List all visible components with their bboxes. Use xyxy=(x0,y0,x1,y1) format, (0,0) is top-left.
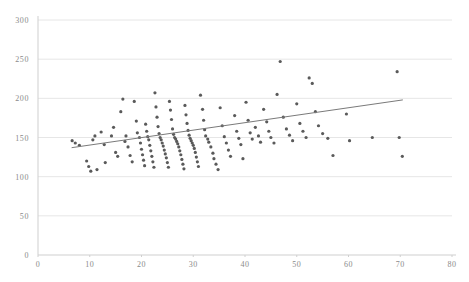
data-point xyxy=(167,166,170,169)
x-tick-label: 40 xyxy=(240,260,249,269)
data-point xyxy=(124,134,127,137)
data-point xyxy=(401,155,404,158)
data-point xyxy=(272,141,275,144)
data-point xyxy=(219,106,222,109)
data-point xyxy=(223,135,226,138)
x-tick-label: 70 xyxy=(396,260,405,269)
data-point xyxy=(179,153,182,156)
data-point xyxy=(207,141,210,144)
data-point xyxy=(321,132,324,135)
data-point xyxy=(126,145,129,148)
data-point xyxy=(202,119,205,122)
data-point xyxy=(131,160,134,163)
data-point xyxy=(114,151,117,154)
data-point xyxy=(140,148,143,151)
data-point xyxy=(345,112,348,115)
data-point xyxy=(89,170,92,173)
x-tick-label: 0 xyxy=(36,260,41,269)
data-point xyxy=(182,167,185,170)
data-point xyxy=(185,122,188,125)
data-point xyxy=(285,127,288,130)
data-point xyxy=(164,152,167,155)
data-point xyxy=(160,138,163,141)
data-point xyxy=(71,139,74,142)
data-point xyxy=(254,126,257,129)
data-point xyxy=(371,136,374,139)
data-point xyxy=(295,102,298,105)
y-tick-label: 300 xyxy=(15,16,29,25)
data-point xyxy=(119,110,122,113)
trendline xyxy=(72,100,403,148)
data-point xyxy=(152,166,155,169)
scatter-chart: 050100150200250300 01020304050607080 xyxy=(0,0,469,282)
data-point xyxy=(143,164,146,167)
data-point xyxy=(155,116,158,119)
data-point xyxy=(265,120,268,123)
data-point xyxy=(288,134,291,137)
data-point xyxy=(165,156,168,159)
data-point xyxy=(150,155,153,158)
data-point xyxy=(104,161,107,164)
y-tick-label: 100 xyxy=(15,173,29,182)
x-tick-labels: 01020304050607080 xyxy=(36,255,457,269)
data-point xyxy=(188,134,191,137)
data-point xyxy=(133,100,136,103)
trend-line xyxy=(72,100,403,148)
data-point xyxy=(87,165,90,168)
data-point xyxy=(279,60,282,63)
x-tick-label: 20 xyxy=(137,260,146,269)
plot-canvas: 050100150200250300 01020304050607080 xyxy=(0,0,469,282)
data-point xyxy=(244,101,247,104)
data-point xyxy=(177,145,180,148)
y-tick-label: 200 xyxy=(15,94,29,103)
data-point xyxy=(151,160,154,163)
data-point xyxy=(269,136,272,139)
data-point xyxy=(153,91,156,94)
data-point xyxy=(398,136,401,139)
data-point xyxy=(247,119,250,122)
data-point xyxy=(148,144,151,147)
data-point xyxy=(331,154,334,157)
x-tick-label: 10 xyxy=(85,260,94,269)
data-point xyxy=(121,98,124,101)
data-point xyxy=(194,151,197,154)
axes xyxy=(38,16,456,255)
data-point xyxy=(199,94,202,97)
y-tick-label: 0 xyxy=(24,251,29,260)
data-point xyxy=(147,138,150,141)
data-point xyxy=(304,136,307,139)
data-point xyxy=(170,118,173,121)
data-point xyxy=(192,144,195,147)
data-point xyxy=(216,168,219,171)
data-point xyxy=(233,114,236,117)
data-point xyxy=(206,137,209,140)
data-point xyxy=(301,130,304,133)
data-point xyxy=(176,142,179,145)
data-point xyxy=(183,104,186,107)
data-point xyxy=(267,130,270,133)
data-point xyxy=(311,82,314,85)
data-point xyxy=(141,153,144,156)
data-point xyxy=(93,134,96,137)
data-point xyxy=(249,131,252,134)
data-point xyxy=(135,119,138,122)
data-point xyxy=(74,141,77,144)
data-point xyxy=(251,137,254,140)
data-point xyxy=(197,165,200,168)
data-point xyxy=(317,124,320,127)
y-tick-label: 150 xyxy=(15,134,29,143)
gridlines xyxy=(38,20,452,216)
data-point xyxy=(237,137,240,140)
data-point xyxy=(214,163,217,166)
data-point xyxy=(184,113,187,116)
data-point xyxy=(262,108,265,111)
data-point xyxy=(95,168,98,171)
data-point xyxy=(91,138,94,141)
data-point xyxy=(229,155,232,158)
data-point xyxy=(171,127,174,130)
data-point xyxy=(129,154,132,157)
data-point xyxy=(227,148,230,151)
x-tick-label: 80 xyxy=(447,260,456,269)
data-point xyxy=(241,157,244,160)
data-point xyxy=(193,147,196,150)
